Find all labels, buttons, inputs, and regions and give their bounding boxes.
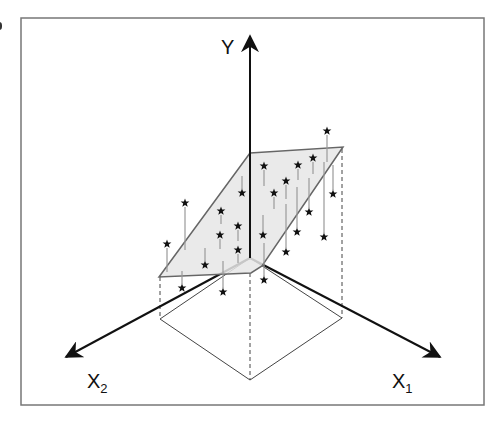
star-icon — [293, 227, 302, 235]
star-icon — [329, 189, 338, 197]
x1-axis-line — [250, 258, 440, 357]
star-icon — [163, 239, 172, 247]
star-icon — [181, 198, 190, 206]
x2-axis-label: X2 — [87, 370, 108, 396]
star-icon — [305, 207, 314, 215]
star-icon — [282, 247, 291, 255]
star-icon — [178, 283, 187, 291]
regression-plane-diagram: Y X2 X1 — [0, 0, 501, 425]
star-icon — [320, 232, 329, 240]
axes — [66, 258, 440, 357]
star-icon — [323, 126, 332, 134]
star-icon — [260, 275, 269, 283]
x1-axis-label: X1 — [392, 370, 413, 396]
star-icon — [219, 287, 228, 295]
y-axis-label: Y — [221, 36, 234, 58]
